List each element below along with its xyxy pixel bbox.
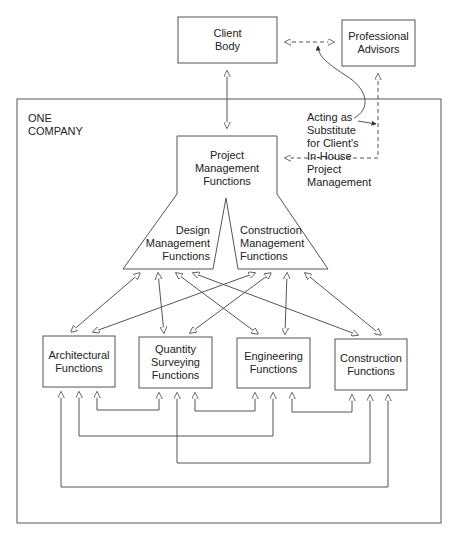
- client-body-label: Client Body: [178, 27, 277, 53]
- one-company-label: ONE COMPANY: [28, 112, 83, 138]
- construction-label: Construction Functions: [335, 352, 407, 378]
- construction-management-label: Construction Management Functions: [240, 224, 330, 263]
- acting-as-substitute-annotation: Acting as Substitute for Client's In-Hou…: [307, 111, 371, 189]
- management-to-functions-links: [71, 273, 381, 335]
- design-management-label: Design Management Functions: [140, 224, 210, 263]
- organisation-diagram: [0, 0, 456, 537]
- engineering-label: Engineering Functions: [237, 350, 310, 376]
- inter-function-links: [61, 392, 388, 487]
- project-management-label: Project Management Functions: [177, 149, 277, 188]
- professional-advisors-label: Professional Advisors: [342, 30, 415, 56]
- quantity-surveying-label: Quantity Surveying Functions: [139, 343, 212, 382]
- architectural-label: Architectural Functions: [43, 349, 115, 375]
